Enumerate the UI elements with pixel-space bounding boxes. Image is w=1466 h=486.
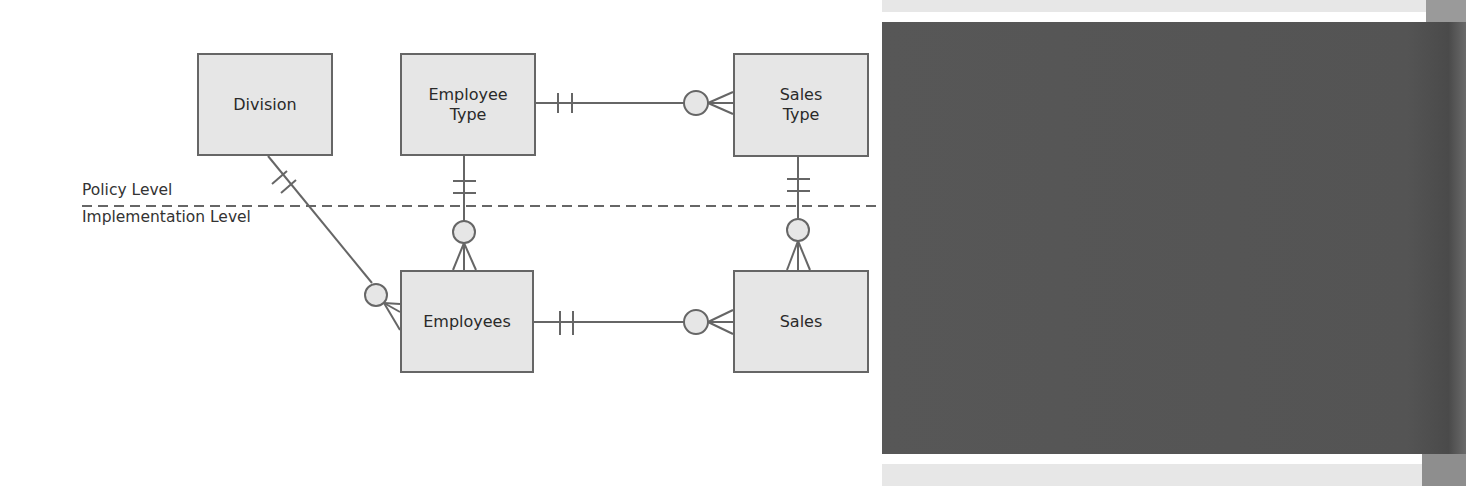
- light-strip-bottom: [882, 464, 1422, 486]
- entity-division: Division: [197, 53, 333, 156]
- entity-label: Employees: [423, 312, 511, 332]
- er-diagram: Policy Level Implementation Level Divisi…: [0, 0, 880, 486]
- redacted-dark-panel: [882, 22, 1466, 454]
- entity-label-line-1: Employee: [428, 85, 507, 105]
- entity-label: Division: [233, 95, 296, 115]
- implementation-level-label: Implementation Level: [82, 208, 251, 226]
- entity-employees: Employees: [400, 270, 534, 373]
- entity-sales-type: Sales Type: [733, 53, 869, 157]
- page-edge-bottom: [1422, 454, 1466, 486]
- entity-label-line-1: Sales: [780, 85, 823, 105]
- entity-sales: Sales: [733, 270, 869, 373]
- light-strip-top: [882, 0, 1426, 12]
- entity-label: Sales: [780, 312, 823, 332]
- policy-level-label: Policy Level: [82, 181, 172, 199]
- entity-label-line-2: Type: [450, 105, 487, 125]
- page-edge-top: [1426, 0, 1466, 24]
- salestype-sales-relationship: [787, 156, 810, 270]
- employeetype-employees-relationship: [453, 155, 476, 270]
- employeetype-salestype-relationship: [535, 91, 733, 115]
- employees-sales-relationship: [533, 310, 733, 335]
- entity-label-line-2: Type: [783, 105, 820, 125]
- entity-employee-type: Employee Type: [400, 53, 536, 156]
- division-employees-relationship: [268, 156, 400, 330]
